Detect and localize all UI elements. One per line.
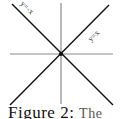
figure-caption: Figure 2: The — [8, 103, 102, 119]
origin-point — [59, 52, 63, 56]
diagram: y=-x y=x — [0, 0, 129, 108]
caption-text: The — [79, 106, 102, 119]
caption-figure-label: Figure 2: — [8, 103, 74, 119]
label-y-eq-x: y=x — [86, 28, 101, 43]
